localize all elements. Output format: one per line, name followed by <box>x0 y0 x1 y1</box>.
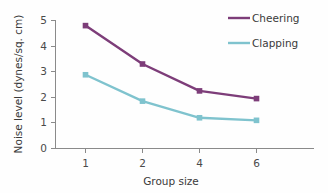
legend-label-clapping: Clapping <box>252 37 298 49</box>
data-point-clapping-6 <box>254 118 260 124</box>
data-point-cheering-4 <box>197 88 203 94</box>
y-tick-label-5: 5 <box>40 14 47 26</box>
data-point-cheering-6 <box>254 96 260 102</box>
x-tick-label-4: 4 <box>196 157 203 169</box>
x-tick-label-6: 6 <box>253 157 260 169</box>
y-tick-label-1: 1 <box>40 116 47 128</box>
y-tick-label-3: 3 <box>40 65 47 77</box>
y-axis-title: Noise level (dynes/sq. cm) <box>12 15 24 154</box>
legend: Cheering Clapping <box>228 12 299 49</box>
y-tick-label-2: 2 <box>40 91 47 103</box>
y-axis-ticks <box>51 21 56 149</box>
series-layer <box>83 23 260 123</box>
data-point-cheering-1 <box>83 23 89 29</box>
legend-label-cheering: Cheering <box>252 12 299 24</box>
noise-level-line-chart: 5 4 3 2 1 0 1 2 4 6 Group size Noise lev… <box>0 0 328 193</box>
x-axis-tick-labels: 1 2 4 6 <box>82 157 260 169</box>
x-tick-label-2: 2 <box>139 157 146 169</box>
series-line-clapping <box>86 75 257 121</box>
x-axis-ticks <box>86 149 257 154</box>
y-tick-label-4: 4 <box>40 40 47 52</box>
y-tick-label-0: 0 <box>40 142 47 154</box>
x-axis-title: Group size <box>143 175 199 187</box>
data-point-clapping-1 <box>83 72 89 78</box>
y-axis-tick-labels: 5 4 3 2 1 0 <box>40 14 47 154</box>
data-point-clapping-4 <box>197 115 203 121</box>
chart-canvas: 5 4 3 2 1 0 1 2 4 6 Group size Noise lev… <box>0 0 328 193</box>
x-tick-label-1: 1 <box>82 157 89 169</box>
data-point-clapping-2 <box>140 98 146 104</box>
data-point-cheering-2 <box>140 61 146 67</box>
